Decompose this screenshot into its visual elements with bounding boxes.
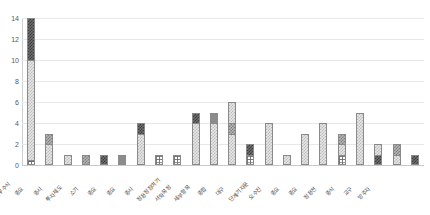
bar-slot[interactable] [113, 18, 131, 165]
bar-segment [118, 155, 126, 166]
x-tick-label-text: 투자제도 [44, 184, 62, 202]
bar-slot[interactable] [351, 18, 369, 165]
bar-slot[interactable] [22, 18, 40, 165]
bar-slot[interactable] [369, 18, 387, 165]
x-tick-label: 중요 [8, 186, 25, 203]
x-axis-labels: 김영우수식중요중시투자제도소기중요중요중시정용정참여기서화목정세부항목중합대구단… [22, 166, 424, 215]
bar[interactable] [246, 144, 254, 165]
x-tick-label-text: 중요 [269, 186, 280, 197]
x-tick-label-text: 소기 [68, 186, 79, 197]
bar-slot[interactable] [241, 18, 259, 165]
bar-slot[interactable] [59, 18, 77, 165]
bar[interactable] [192, 113, 200, 166]
bar[interactable] [338, 134, 346, 166]
y-tick-label: 6 [1, 99, 19, 106]
bar-segment [45, 134, 53, 145]
x-tick-label: 중요 [81, 186, 98, 203]
bar-segment [246, 144, 254, 155]
bar[interactable] [319, 123, 327, 165]
bar-segment [27, 160, 35, 165]
bar-segment [283, 155, 291, 166]
bar-segment [27, 18, 35, 60]
bar[interactable] [393, 144, 401, 165]
bar-slot[interactable] [95, 18, 113, 165]
x-tick-label: 단계기자문 [227, 186, 244, 203]
x-tick-label-text: 중요 [87, 186, 98, 197]
bar[interactable] [301, 134, 309, 166]
bar-slot[interactable] [223, 18, 241, 165]
bar-slot[interactable] [186, 18, 204, 165]
x-tick-label: 세부항목 [172, 186, 189, 203]
bar-chart: 02468101214 김영우수식중요중시투자제도소기중요중요중시정용정참여기서… [0, 0, 430, 215]
bar-slot[interactable] [406, 18, 424, 165]
x-tick-label: 중요 [282, 186, 299, 203]
bar-segment [192, 123, 200, 165]
bar-segment [301, 134, 309, 166]
y-tick-label: 14 [1, 15, 19, 22]
bar-slot[interactable] [77, 18, 95, 165]
x-tick-label: 정용정참여기 [136, 186, 153, 203]
y-tick-label: 10 [1, 57, 19, 64]
bar-segment [374, 144, 382, 155]
bar[interactable] [118, 155, 126, 166]
bar-segment [228, 102, 236, 123]
x-tick-label: 서화목정 [154, 186, 171, 203]
x-tick-label: 김영우수식 [0, 186, 7, 203]
bar[interactable] [210, 113, 218, 166]
x-tick-label-text: 오수진 [248, 186, 263, 201]
bar-segment [210, 113, 218, 124]
bar[interactable] [27, 18, 35, 165]
bar-slot[interactable] [40, 18, 58, 165]
bar-segment [27, 60, 35, 160]
x-tick-label: 대구 [209, 186, 226, 203]
bar[interactable] [100, 155, 108, 166]
x-tick-label: 방주자 [355, 186, 372, 203]
x-tick-label: 중요 [264, 186, 281, 203]
bar[interactable] [173, 155, 181, 166]
bar-segment [192, 113, 200, 124]
bar-slot[interactable] [333, 18, 351, 165]
bar-segment [173, 155, 181, 166]
bar[interactable] [374, 144, 382, 165]
bar-segment [356, 113, 364, 166]
x-tick-label: 중식 [318, 186, 335, 203]
y-tick-label: 8 [1, 78, 19, 85]
bar[interactable] [155, 155, 163, 166]
bar-slot[interactable] [205, 18, 223, 165]
bar-segment [393, 155, 401, 166]
x-tick-label-text: 대구 [215, 186, 226, 197]
bar-segment [137, 134, 145, 166]
bar[interactable] [283, 155, 291, 166]
bar-slot[interactable] [150, 18, 168, 165]
bar-segment [228, 123, 236, 134]
bar-slot[interactable] [132, 18, 150, 165]
x-tick-label-text: 중시 [32, 186, 43, 197]
bar-segment [137, 123, 145, 134]
bar[interactable] [411, 155, 419, 166]
y-tick-label: 2 [1, 141, 19, 148]
bar-segment [411, 155, 419, 166]
bar[interactable] [228, 102, 236, 165]
bar[interactable] [137, 123, 145, 165]
x-tick-label-text: 세부항목 [172, 184, 190, 202]
bar[interactable] [356, 113, 364, 166]
bar-segment [374, 155, 382, 166]
bar[interactable] [45, 134, 53, 166]
bar-slot[interactable] [168, 18, 186, 165]
x-tick-label-text: 서화목정 [154, 184, 172, 202]
x-tick-label: 중합 [190, 186, 207, 203]
bar-segment [100, 155, 108, 166]
bar-slot[interactable] [314, 18, 332, 165]
x-tick-label: 오수진 [245, 186, 262, 203]
bar[interactable] [64, 155, 72, 166]
y-axis-ticks: 02468101214 [0, 18, 19, 165]
bar-slot[interactable] [296, 18, 314, 165]
x-tick-label: 중요 [99, 186, 116, 203]
bar-slot[interactable] [387, 18, 405, 165]
bar[interactable] [82, 155, 90, 166]
x-tick-label-text: 정용전 [302, 186, 317, 201]
bar-segment [210, 123, 218, 165]
bar-slot[interactable] [260, 18, 278, 165]
bar[interactable] [265, 123, 273, 165]
bar-slot[interactable] [278, 18, 296, 165]
